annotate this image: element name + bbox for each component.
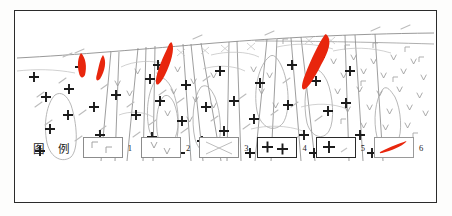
legend-item-3[interactable]: 3 (199, 137, 248, 158)
legend-swatch-vee-icon (141, 137, 181, 158)
surface-contact-line-right (255, 41, 434, 44)
cross-section-drawing (15, 11, 436, 201)
minor-contacts (17, 44, 391, 131)
legend-row: 图 例 1 (15, 125, 436, 170)
legend-swatch-corner-bracket-icon (83, 137, 123, 158)
figure-root: 图 例 1 (0, 0, 452, 216)
legend-item-2[interactable]: 2 (141, 137, 190, 158)
legend-number-4: 4 (302, 143, 306, 153)
legend-swatch-double-plus-icon (257, 137, 297, 158)
surface-contact-line (17, 33, 434, 58)
legend-number-3: 3 (244, 143, 248, 153)
legend-swatch-plus-dash-icon (316, 137, 356, 158)
legend-item-6[interactable]: 6 (374, 137, 423, 158)
legend-swatch-crosshatch-icon (199, 137, 239, 158)
legend-panel: 图 例 1 (15, 125, 436, 170)
ore-lens-2 (96, 55, 105, 80)
legend-item-4[interactable]: 4 (257, 137, 306, 158)
legend-number-6: 6 (419, 143, 423, 153)
legend-number-1: 1 (128, 143, 132, 153)
legend-number-5: 5 (361, 143, 365, 153)
legend-item-5[interactable]: 5 (316, 137, 365, 158)
legend-number-2: 2 (186, 143, 190, 153)
ore-lens-1 (78, 53, 86, 77)
figure-frame: 图 例 1 (14, 10, 437, 203)
legend-item-1[interactable]: 1 (83, 137, 132, 158)
legend-swatch-ore-lens-icon (374, 137, 414, 158)
legend-title: 图 例 (33, 140, 74, 156)
